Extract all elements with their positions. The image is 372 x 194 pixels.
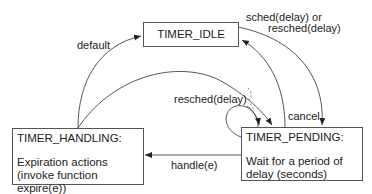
state-description: Wait for a period of delay (seconds) [246,155,362,181]
state-title: TIMER_HANDLING: [17,132,143,145]
state-timer-pending: TIMER_PENDING: Wait for a period of dela… [241,127,363,181]
label-resched: resched(delay) [174,93,247,106]
label-handle: handle(e) [171,159,217,172]
state-timer-idle: TIMER_IDLE [143,22,239,47]
label-default: default [77,39,110,52]
state-timer-handling: TIMER_HANDLING: Expiration actions (invo… [12,128,144,185]
label-sched-line2: resched(delay) [268,22,341,35]
state-title: TIMER_IDLE [144,28,238,41]
state-title: TIMER_PENDING: [246,131,362,144]
label-cancel: cancel [288,110,320,123]
state-description: Expiration actions (invoke function expi… [17,156,143,194]
